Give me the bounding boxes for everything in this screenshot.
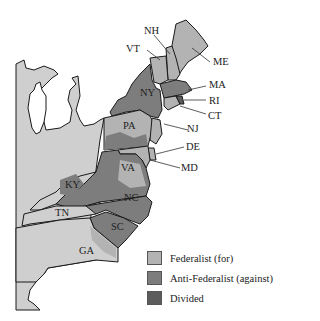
legend-label: Anti-Federalist (against) xyxy=(170,273,273,284)
legend-item-divided: Divided xyxy=(147,288,273,308)
label-PA: PA xyxy=(123,121,135,132)
label-GA: GA xyxy=(79,246,94,257)
map-legend: Federalist (for) Anti-Federalist (agains… xyxy=(147,248,273,308)
label-SC: SC xyxy=(111,222,124,233)
state-VT xyxy=(150,56,168,84)
legend-label: Federalist (for) xyxy=(170,253,233,264)
label-RI: RI xyxy=(209,96,220,107)
legend-label: Divided xyxy=(170,293,204,304)
label-VT: VT xyxy=(126,44,140,55)
legend-item-anti-federalist: Anti-Federalist (against) xyxy=(147,268,273,288)
federalist-swatch xyxy=(147,251,162,265)
divided-swatch xyxy=(147,291,162,305)
label-MD: MD xyxy=(181,163,198,174)
label-NJ: NJ xyxy=(187,124,199,135)
state-NJ xyxy=(150,118,162,144)
legend-item-federalist: Federalist (for) xyxy=(147,248,273,268)
label-NC: NC xyxy=(124,193,139,204)
state-MA xyxy=(160,80,192,98)
label-NH: NH xyxy=(144,26,159,37)
label-VA: VA xyxy=(121,163,135,174)
label-DE: DE xyxy=(186,142,200,153)
label-MA: MA xyxy=(209,80,226,91)
label-CT: CT xyxy=(208,111,221,122)
label-NY: NY xyxy=(140,88,155,99)
label-TN: TN xyxy=(55,208,69,219)
label-ME: ME xyxy=(213,57,229,68)
anti-federalist-swatch xyxy=(147,271,162,285)
label-KY: KY xyxy=(65,180,80,191)
